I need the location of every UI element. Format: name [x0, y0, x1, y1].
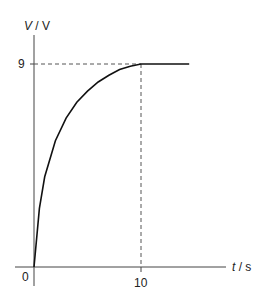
x-tick-label-10: 10: [134, 276, 148, 290]
origin-label: 0: [22, 270, 29, 284]
y-tick-label-9: 9: [18, 57, 25, 71]
voltage-curve: [34, 64, 189, 267]
y-axis-label: V / V: [24, 19, 50, 33]
chart: V / V t / s 9 0 10: [0, 0, 266, 298]
x-axis-label: t / s: [232, 260, 251, 274]
